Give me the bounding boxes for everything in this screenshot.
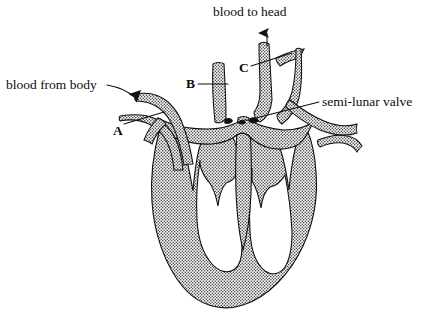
label-semi-lunar-valve: semi-lunar valve xyxy=(322,95,412,109)
label-blood-to-head: blood to head xyxy=(213,5,287,19)
heart-diagram-illustration xyxy=(0,0,439,319)
label-b: B xyxy=(186,77,195,91)
label-blood-from-body: blood from body xyxy=(6,78,97,92)
vessel-right-small xyxy=(318,135,362,152)
label-c: C xyxy=(239,61,249,75)
valve-cusp-left xyxy=(224,118,233,124)
vessel-c-aorta xyxy=(254,43,272,123)
blood-from-body-leader xyxy=(107,85,134,97)
vessel-b-pulmonary xyxy=(213,63,226,123)
label-a: A xyxy=(113,124,123,138)
heart-diagram-figure: blood to head blood from body semi-lunar… xyxy=(0,0,439,319)
